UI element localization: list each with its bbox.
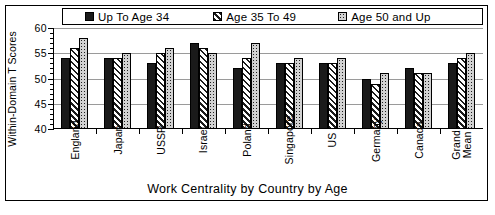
solid-square-icon [85,12,94,21]
legend-label: Up To Age 34 [98,11,169,23]
bar [405,68,414,129]
category-label-text: Canada [412,121,424,158]
legend-item-age-50-and-up: Age 50 and Up [338,11,430,23]
bar [466,53,475,129]
category-label-text: England [68,120,80,159]
y-tick-minor [50,109,54,110]
category-label-text: Grand Mean [451,124,473,167]
category-label: England [53,134,96,184]
bar [457,58,466,129]
bar-group [405,28,432,129]
bar [113,58,122,129]
y-axis-title: Within-Domain T Scores [4,24,20,154]
y-tick-minor [50,33,54,34]
bar-group [190,28,217,129]
y-tick-label: 40 [35,123,47,135]
y-tick-minor [50,89,54,90]
x-axis-title: Work Centrality by Country by Age [6,182,489,196]
plot-area: 4045505560 [53,28,483,129]
category-label-text: Israel [198,127,210,153]
bar [156,53,165,129]
bar [61,58,70,129]
y-tick-major [48,79,54,80]
bar-group [147,28,174,129]
category-label: Poland [225,134,268,184]
category-label: Israel [182,134,225,184]
bar-group [233,28,260,129]
y-tick-minor [50,58,54,59]
bar [104,58,113,129]
category-label: Germany [354,134,397,184]
legend-label: Age 35 To 49 [226,11,296,23]
y-tick-major [48,28,54,29]
y-tick-minor [50,119,54,120]
y-tick-minor [50,99,54,100]
bar [448,63,457,129]
bar [199,48,208,129]
y-tick-minor [50,38,54,39]
chart-frame: Up To Age 34 Age 35 To 49 Age 50 and Up … [5,5,488,201]
y-tick-minor [50,114,54,115]
hatched-square-icon [213,12,222,21]
category-label: Grand Mean [440,134,483,184]
legend-item-age-35-to-49: Age 35 To 49 [213,11,296,23]
y-tick-label: 50 [35,73,47,85]
bar-group [276,28,303,129]
bar [208,53,217,129]
y-tick-minor [50,84,54,85]
y-tick-label: 55 [35,47,47,59]
chart-legend: Up To Age 34 Age 35 To 49 Age 50 and Up [62,8,483,25]
category-label-text: Japan [111,125,123,154]
y-tick-major [48,53,54,54]
category-labels: EnglandJapanUSSRIsraelPolandSingaporeUSG… [53,134,483,184]
bar [319,63,328,129]
y-tick-minor [50,73,54,74]
y-tick-minor [50,48,54,49]
category-label: Japan [96,134,139,184]
category-label-text: Poland [240,123,252,156]
bar [233,68,242,129]
bar [147,63,156,129]
y-tick-minor [50,124,54,125]
bar [337,58,346,129]
bar [165,48,174,129]
category-label: Canada [397,134,440,184]
category-label-text: Singapore [284,116,296,165]
bar [294,58,303,129]
bar [70,48,79,129]
bar [251,43,260,129]
y-tick-minor [50,63,54,64]
y-tick-label: 45 [35,98,47,110]
category-label: US [311,134,354,184]
bar-group [362,28,389,129]
bar-group [104,28,131,129]
y-tick-major [48,104,54,105]
bar [122,53,131,129]
bar [328,63,337,129]
legend-label: Age 50 and Up [351,11,430,23]
y-tick-minor [50,94,54,95]
bar [242,58,251,129]
legend-item-up-to-age-34: Up To Age 34 [85,11,169,23]
bar-group [61,28,88,129]
bar-group [319,28,346,129]
category-label-text: Germany [370,118,382,162]
bar [79,38,88,129]
y-tick-label: 60 [35,22,47,34]
category-label: USSR [139,134,182,184]
y-axis-title-text: Within-Domain T Scores [6,31,18,147]
dotted-square-icon [338,12,347,21]
bar [190,43,199,129]
y-tick-minor [50,68,54,69]
y-tick-minor [50,43,54,44]
category-label: Singapore [268,134,311,184]
category-label-text: US [326,133,338,148]
bar-group [448,28,475,129]
category-label-text: USSR [154,125,166,155]
